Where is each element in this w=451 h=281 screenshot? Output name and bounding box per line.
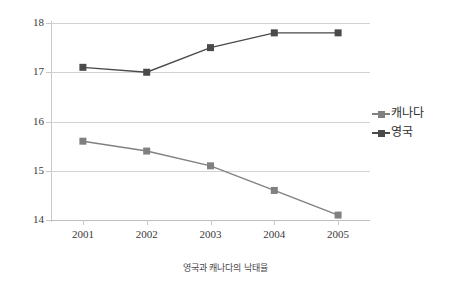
legend-label: 영국 [391,126,413,139]
data-point-marker [143,69,150,76]
y-tick-mark [46,122,51,123]
legend-label: 캐나다 [391,107,424,120]
data-point-marker [335,212,342,219]
y-tick-mark [46,23,51,24]
data-point-marker [143,148,150,155]
data-point-marker [207,44,214,51]
legend-item[interactable]: 캐나다 [372,104,451,123]
data-point-marker [79,138,86,145]
line-chart: 1817161514 20012002200320042005 캐나다영국 영국… [0,0,451,281]
legend-swatch-icon [372,128,390,138]
series-line-0 [83,141,338,215]
data-point-marker [271,187,278,194]
y-tick-mark [46,171,51,172]
data-point-marker [335,29,342,36]
data-point-marker [79,64,86,71]
data-point-marker [207,162,214,169]
chart-caption: 영국과 캐나다의 낙태율 [0,263,451,274]
legend-swatch-icon [372,109,390,119]
y-tick-mark [46,72,51,73]
legend-item[interactable]: 영국 [372,123,451,142]
y-tick-mark [46,220,51,221]
legend: 캐나다영국 [372,104,451,142]
data-point-marker [271,29,278,36]
series-line-1 [83,33,338,72]
